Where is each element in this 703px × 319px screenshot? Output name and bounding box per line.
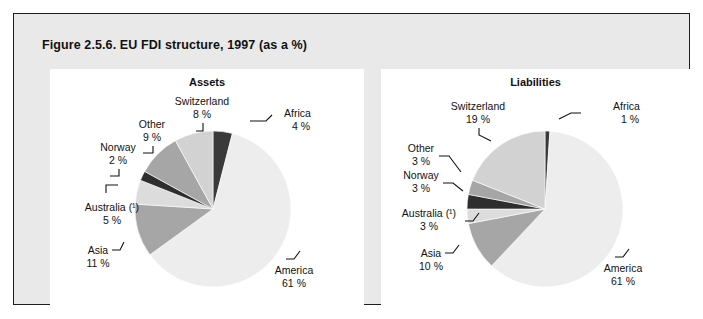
slice-label-name-asia: Asia <box>88 244 109 256</box>
slice-label-other: Other9 % <box>139 118 166 143</box>
leader-line-norway <box>443 183 463 191</box>
slice-label-name-switzerland: Switzerland <box>451 100 505 112</box>
slice-label-africa: Africa4 % <box>284 107 311 132</box>
slice-label-value-asia: 10 % <box>419 260 443 272</box>
slice-label-asia: Asia10 % <box>419 247 443 272</box>
slice-label-name-america: America <box>604 262 643 274</box>
slice-label-value-norway: 2 % <box>109 154 127 166</box>
slice-label-value-other: 3 % <box>412 155 430 167</box>
slice-label-other: Other3 % <box>408 142 435 167</box>
slice-label-value-australia: 3 % <box>420 220 438 232</box>
figure-title: Figure 2.5.6. EU FDI structure, 1997 (as… <box>42 38 307 52</box>
slice-label-name-other: Other <box>408 142 435 154</box>
slice-label-value-switzerland: 19 % <box>466 113 490 125</box>
slice-label-name-america: America <box>275 264 314 276</box>
leader-line-africa <box>559 113 581 119</box>
leader-line-other <box>439 156 461 172</box>
slice-label-name-africa: Africa <box>284 107 311 119</box>
slice-label-value-america: 61 % <box>611 275 635 287</box>
chart-panel-assets: Assets Africa4 %Switzerland8 %Other9 %No… <box>50 69 364 309</box>
slice-label-name-norway: Norway <box>100 141 136 153</box>
slice-label-australia: Australia (¹)3 % <box>402 207 456 232</box>
slice-label-value-africa: 4 % <box>292 120 310 132</box>
pie-chart-liabilities: Africa1 %Switzerland19 %Other3 %Norway3 … <box>381 69 690 309</box>
leader-line-asia <box>445 245 459 253</box>
leader-line-switzerland <box>479 128 491 141</box>
slice-label-value-norway: 3 % <box>412 182 430 194</box>
slice-label-value-asia: 11 % <box>86 257 109 269</box>
slice-label-switzerland: Switzerland19 % <box>451 100 505 125</box>
slice-label-asia: Asia11 % <box>86 244 109 269</box>
slice-label-name-other: Other <box>139 118 166 130</box>
leader-line-america <box>615 249 629 257</box>
leader-line-switzerland <box>196 123 203 131</box>
slice-label-value-australia: 5 % <box>103 214 121 226</box>
leader-line-asia <box>112 242 124 250</box>
figure-frame: Figure 2.5.6. EU FDI structure, 1997 (as… <box>13 13 690 305</box>
slice-label-name-norway: Norway <box>403 169 439 181</box>
slice-label-value-africa: 1 % <box>621 113 639 125</box>
slice-label-value-switzerland: 8 % <box>193 108 211 120</box>
slice-label-africa: Africa1 % <box>613 100 640 125</box>
leader-line-africa <box>250 115 272 121</box>
slice-label-norway: Norway2 % <box>100 141 136 166</box>
leader-line-norway <box>110 169 119 176</box>
chart-panel-liabilities: Liabilities Africa1 %Switzerland19 %Othe… <box>381 69 690 309</box>
slice-label-name-africa: Africa <box>613 100 640 112</box>
figure-screenshot: Figure 2.5.6. EU FDI structure, 1997 (as… <box>0 0 703 319</box>
slice-label-america: America61 % <box>604 262 643 287</box>
slice-label-value-america: 61 % <box>282 277 306 289</box>
slice-label-value-other: 9 % <box>143 131 161 143</box>
pie-chart-assets: Africa4 %Switzerland8 %Other9 %Norway2 %… <box>50 69 364 309</box>
slice-label-australia: Australia (¹)5 % <box>85 201 139 226</box>
slice-label-name-switzerland: Switzerland <box>175 95 229 107</box>
slice-label-america: America61 % <box>275 264 314 289</box>
leader-line-australia <box>106 185 118 193</box>
slice-label-switzerland: Switzerland8 % <box>175 95 229 120</box>
leader-line-america <box>286 251 300 259</box>
slice-label-name-asia: Asia <box>421 247 442 259</box>
slice-label-norway: Norway3 % <box>403 169 439 194</box>
leader-line-other <box>143 146 153 153</box>
slice-label-name-australia: Australia (¹) <box>85 201 139 213</box>
slice-label-name-australia: Australia (¹) <box>402 207 456 219</box>
